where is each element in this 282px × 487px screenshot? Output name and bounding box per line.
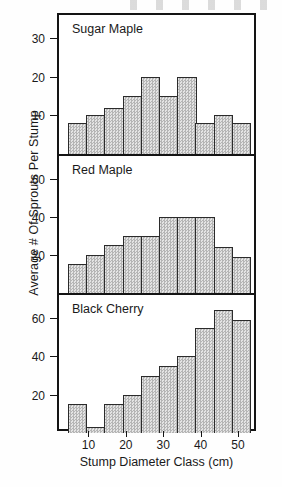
panel-sugar-maple: Sugar Maple 102030 bbox=[59, 15, 254, 154]
bar bbox=[214, 247, 233, 293]
y-axis-tick-label: 30 bbox=[32, 32, 45, 46]
y-axis-tick: 20 bbox=[50, 77, 59, 78]
bar bbox=[123, 96, 142, 154]
bar bbox=[68, 404, 87, 433]
y-axis-tick-label: 40 bbox=[32, 350, 45, 364]
x-axis-tick-label: 30 bbox=[157, 438, 170, 452]
bar bbox=[232, 320, 251, 433]
x-axis-tick-label: 20 bbox=[119, 438, 132, 452]
bar bbox=[104, 108, 123, 154]
y-axis-tick: 30 bbox=[50, 38, 59, 39]
x-axis-tick-label: 10 bbox=[82, 438, 95, 452]
bar bbox=[159, 366, 178, 433]
x-axis: Stump Diameter Class (cm) 1020304050 bbox=[57, 431, 256, 471]
plot-frame: Sugar Maple 102030 Red Maple 204060 Blac… bbox=[57, 13, 256, 431]
bar bbox=[86, 115, 105, 154]
y-axis-tick: 20 bbox=[50, 255, 59, 256]
y-axis-tick-label: 20 bbox=[32, 71, 45, 85]
bar bbox=[177, 217, 196, 293]
y-axis-tick-label: 40 bbox=[32, 211, 45, 225]
bar bbox=[141, 77, 160, 154]
y-axis-tick: 60 bbox=[50, 318, 59, 319]
bar bbox=[159, 217, 178, 293]
y-axis-tick-label: 10 bbox=[32, 109, 45, 123]
x-axis-tick bbox=[88, 431, 89, 437]
bar bbox=[232, 257, 251, 293]
bar bbox=[177, 356, 196, 433]
panel-red-maple: Red Maple 204060 bbox=[59, 154, 254, 293]
bar bbox=[214, 115, 233, 154]
bar bbox=[68, 264, 87, 293]
y-axis-tick: 10 bbox=[50, 115, 59, 116]
y-axis-tick-label: 20 bbox=[32, 249, 45, 263]
bar bbox=[195, 123, 214, 154]
bar bbox=[214, 310, 233, 433]
x-axis-tick bbox=[163, 431, 164, 437]
bar bbox=[104, 404, 123, 433]
bar bbox=[141, 376, 160, 434]
y-axis-tick: 20 bbox=[50, 395, 59, 396]
y-axis-tick-label: 60 bbox=[32, 312, 45, 326]
bar bbox=[68, 123, 87, 154]
figure: Average # Of Sprouts Per Stump Sugar Map… bbox=[0, 0, 282, 487]
bar bbox=[232, 123, 251, 154]
x-axis-tick bbox=[201, 431, 202, 437]
bar bbox=[123, 236, 142, 293]
y-axis-tick-label: 60 bbox=[32, 173, 45, 187]
bar-group-red-maple bbox=[68, 156, 251, 293]
x-axis-title: Stump Diameter Class (cm) bbox=[57, 455, 256, 469]
x-axis-tick bbox=[238, 431, 239, 437]
bar bbox=[123, 395, 142, 433]
bar bbox=[195, 328, 214, 433]
panel-black-cherry: Black Cherry 204060 bbox=[59, 293, 254, 433]
x-axis-tick bbox=[126, 431, 127, 437]
bar-group-black-cherry bbox=[68, 295, 251, 433]
y-axis-tick: 40 bbox=[50, 217, 59, 218]
y-axis-tick: 60 bbox=[50, 179, 59, 180]
y-axis-tick: 40 bbox=[50, 356, 59, 357]
bar bbox=[159, 96, 178, 154]
x-axis-tick-label: 50 bbox=[231, 438, 244, 452]
bar bbox=[86, 255, 105, 293]
bar-group-sugar-maple bbox=[68, 15, 251, 154]
y-axis-tick-label: 20 bbox=[32, 389, 45, 403]
bar bbox=[195, 217, 214, 293]
scan-artifact bbox=[130, 0, 280, 10]
bar bbox=[141, 236, 160, 293]
bar bbox=[177, 77, 196, 154]
bar bbox=[104, 245, 123, 293]
x-axis-tick-label: 40 bbox=[194, 438, 207, 452]
